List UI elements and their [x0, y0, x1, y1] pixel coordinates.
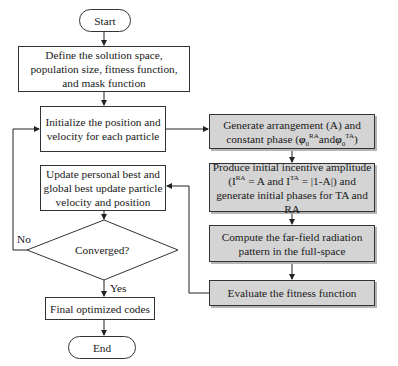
- compute-line-1: Compute the far-field radiation: [222, 230, 363, 244]
- initialize-line-1: Initialize the position and: [45, 115, 160, 129]
- final-label: Final optimized codes: [50, 302, 150, 316]
- initialize-line-2: velocity for each particle: [47, 129, 160, 143]
- define-line-3: and mask function: [62, 76, 145, 90]
- update-line-2: global best update particle: [44, 181, 163, 195]
- produce-line-2: (IRA = A and ITA = |1-A|) and: [228, 174, 356, 188]
- decision-label: Converged?: [75, 244, 129, 257]
- define-line-2: population size, fitness function,: [30, 62, 177, 76]
- no-branch-label: No: [17, 233, 31, 246]
- evaluate-step: Evaluate the fitness function: [209, 280, 375, 306]
- compute-step: Compute the far-field radiation pattern …: [209, 225, 375, 262]
- define-line-1: Define the solution space,: [45, 48, 162, 62]
- end-label: End: [93, 341, 111, 355]
- produce-line-3: generate initial phases for TA and RA: [210, 188, 374, 216]
- yes-branch-label: Yes: [110, 282, 126, 295]
- produce-line-1: Produce initial incentive amplitude: [213, 160, 371, 174]
- initialize-step: Initialize the position and velocity for…: [40, 106, 166, 152]
- end-terminal: End: [68, 336, 136, 359]
- evaluate-label: Evaluate the fitness function: [228, 286, 357, 300]
- generate-line-1: Generate arrangement (A) and: [223, 118, 361, 132]
- compute-line-2: pattern in the full-space: [239, 244, 346, 258]
- produce-step: Produce initial incentive amplitude (IRA…: [209, 163, 375, 212]
- final-step: Final optimized codes: [45, 297, 155, 320]
- start-label: Start: [94, 14, 115, 28]
- start-terminal: Start: [79, 9, 131, 32]
- update-line-3: velocity and position: [56, 195, 151, 209]
- define-step: Define the solution space, population si…: [18, 46, 190, 92]
- generate-step: Generate arrangement (A) and constant ph…: [209, 114, 375, 149]
- update-line-1: Update personal best and: [46, 167, 160, 181]
- update-step: Update personal best and global best upd…: [40, 165, 166, 211]
- generate-line-2: constant phase (φ0RAandφ0TA): [226, 132, 358, 146]
